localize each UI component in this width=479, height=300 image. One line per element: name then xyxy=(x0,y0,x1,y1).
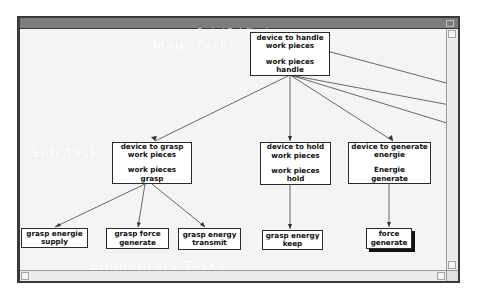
window-titlebar[interactable]: Product Task Structure xyxy=(20,18,458,29)
node-function-line: work pieces xyxy=(271,152,319,160)
node-task-line: handle xyxy=(276,66,304,74)
task-tree-canvas: Main Tasks Sub Tasks Elementary Tasks xyxy=(20,29,446,270)
task-node-grasp-energy-transmit[interactable]: grasp energy transmit xyxy=(178,228,241,250)
task-node-generate-energie[interactable]: device to generate energie Energie gener… xyxy=(348,142,431,184)
zoom-box-icon[interactable] xyxy=(446,20,454,27)
resize-grow-box[interactable] xyxy=(446,270,458,281)
node-task-line: grasp xyxy=(141,175,164,183)
node-task-line: generate xyxy=(371,175,408,183)
task-node-hold-work-pieces[interactable]: device to hold work pieces work pieces h… xyxy=(260,142,331,185)
node-label-line: generate xyxy=(371,239,408,247)
edge-grasp-force xyxy=(138,184,145,227)
node-function-line: energie xyxy=(374,151,405,159)
node-function-line: work pieces xyxy=(128,151,176,159)
product-task-structure-window: Product Task Structure Main Tasks Sub Ta… xyxy=(17,16,460,283)
edge-grasp-supply xyxy=(55,184,145,227)
node-label-line: generate xyxy=(119,239,156,247)
node-function-line: work pieces xyxy=(266,42,314,50)
scroll-up-arrow-icon[interactable] xyxy=(448,30,456,38)
scroll-left-arrow-icon[interactable] xyxy=(21,272,29,280)
node-label-line: supply xyxy=(41,238,68,246)
node-label-line: transmit xyxy=(192,239,227,247)
task-node-root[interactable]: device to handle work pieces work pieces… xyxy=(250,32,330,76)
task-node-grasp-energie-supply[interactable]: grasp energie supply xyxy=(21,228,88,248)
scroll-down-arrow-icon[interactable] xyxy=(448,261,456,269)
node-label-line: keep xyxy=(283,240,302,248)
task-node-grasp-force-generate[interactable]: grasp force generate xyxy=(106,228,169,249)
horizontal-scrollbar[interactable] xyxy=(20,270,446,281)
scroll-right-arrow-icon[interactable] xyxy=(437,272,445,280)
task-node-grasp-work-pieces[interactable]: device to grasp work pieces work pieces … xyxy=(112,142,192,184)
edge-grasp-transmit xyxy=(152,184,205,227)
vertical-scrollbar[interactable] xyxy=(446,29,458,270)
edge-root-grasp xyxy=(155,75,290,141)
task-node-force-generate[interactable]: force generate xyxy=(366,228,412,249)
node-task-line: hold xyxy=(287,175,305,183)
task-node-grasp-energy-keep[interactable]: grasp energy keep xyxy=(262,230,323,250)
edge-root-offscreen-3 xyxy=(312,47,446,84)
